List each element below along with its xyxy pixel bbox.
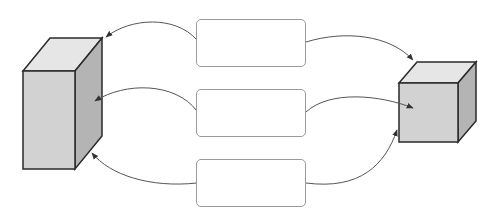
right-block-front-face xyxy=(399,83,458,142)
arrow-top-to-right xyxy=(306,36,413,60)
arrow-top-to-left xyxy=(106,22,197,40)
box-bottom xyxy=(196,159,306,207)
right-block xyxy=(399,62,476,142)
arrow-bottom-to-left xyxy=(92,153,197,184)
arrow-middle-to-right xyxy=(306,97,413,112)
arrow-middle-to-left xyxy=(95,88,197,111)
arrow-bottom-to-right xyxy=(306,130,397,184)
box-top xyxy=(196,19,306,67)
box-middle xyxy=(196,89,306,137)
left-block-front-face xyxy=(23,71,75,169)
left-block xyxy=(23,38,102,169)
